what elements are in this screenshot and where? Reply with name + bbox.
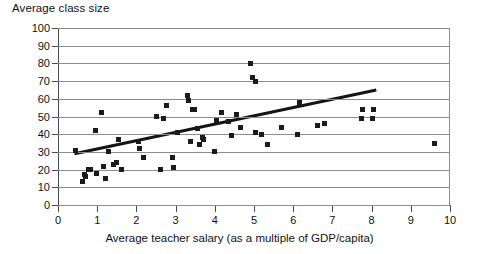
x-axis-title: Average teacher salary (as a multiple of… [0,232,479,244]
y-tick-40 [52,134,58,135]
y-tick-label-60: 60 [10,94,50,104]
data-point [370,116,375,121]
y-tick-10 [52,187,58,188]
y-tick-label-10: 10 [10,182,50,192]
data-point [161,116,166,121]
data-point [171,165,176,170]
data-point [154,114,159,119]
data-point [226,119,231,124]
data-point [186,98,191,103]
gridline-y-100 [58,28,450,29]
data-point [170,155,175,160]
data-point [360,107,365,112]
y-tick-label-70: 70 [10,76,50,86]
data-point [116,137,121,142]
data-point [315,123,320,128]
y-tick-100 [52,28,58,29]
data-point [88,167,93,172]
gridline-y-60 [58,99,450,100]
data-point [175,130,180,135]
gridline-y-30 [58,152,450,153]
y-tick-30 [52,152,58,153]
x-tick-8 [372,206,373,212]
data-point [94,171,99,176]
y-tick-20 [52,170,58,171]
data-point [93,128,98,133]
data-point [195,126,200,131]
y-tick-label-20: 20 [10,165,50,175]
data-point [432,141,437,146]
data-point [197,142,202,147]
y-tick-label-40: 40 [10,129,50,139]
data-point [164,103,169,108]
x-tick-6 [293,206,294,212]
data-point [253,79,258,84]
data-point [137,146,142,151]
data-point [192,107,197,112]
x-tick-label-6: 6 [278,214,308,226]
data-point [185,93,190,98]
x-tick-label-1: 1 [82,214,112,226]
y-tick-label-30: 30 [10,147,50,157]
gridline-y-10 [58,187,450,188]
data-point [214,118,219,123]
plot-area [58,28,450,205]
data-point [103,176,108,181]
data-point [99,110,104,115]
data-point [188,139,193,144]
y-tick-60 [52,99,58,100]
gridline-y-50 [58,117,450,118]
data-point [234,112,239,117]
x-tick-7 [332,206,333,212]
x-tick-label-8: 8 [357,214,387,226]
x-tick-0 [58,206,59,212]
y-tick-label-90: 90 [10,41,50,51]
x-tick-label-9: 9 [396,214,426,226]
x-tick-label-3: 3 [161,214,191,226]
x-tick-label-10: 10 [435,214,465,226]
data-point [297,100,302,105]
y-tick-70 [52,81,58,82]
data-point [119,167,124,172]
data-point [80,179,85,184]
y-tick-90 [52,46,58,47]
data-point [322,121,327,126]
x-tick-label-2: 2 [121,214,151,226]
y-tick-label-80: 80 [10,58,50,68]
data-point [248,61,253,66]
data-point [295,132,300,137]
data-point [158,167,163,172]
y-tick-label-0: 0 [10,200,50,210]
data-point [73,148,78,153]
data-point [279,125,284,130]
x-tick-4 [215,206,216,212]
data-point [238,125,243,130]
data-point [136,139,141,144]
data-point [106,149,111,154]
data-point [265,142,270,147]
y-tick-label-50: 50 [10,112,50,122]
x-tick-1 [97,206,98,212]
data-point [259,132,264,137]
scatter-chart: Average class size 010203040506070809010… [0,0,479,254]
x-tick-3 [176,206,177,212]
x-tick-label-5: 5 [239,214,269,226]
y-tick-50 [52,117,58,118]
data-point [359,116,364,121]
gridline-y-20 [58,170,450,171]
gridline-y-90 [58,46,450,47]
x-tick-label-4: 4 [200,214,230,226]
y-tick-label-100: 100 [10,23,50,33]
data-point [101,164,106,169]
data-point [83,174,88,179]
data-point [371,107,376,112]
data-point [212,149,217,154]
x-tick-9 [411,206,412,212]
y-tick-80 [52,63,58,64]
x-tick-label-0: 0 [43,214,73,226]
data-point [219,110,224,115]
x-tick-2 [136,206,137,212]
data-point [114,160,119,165]
x-tick-5 [254,206,255,212]
data-point [201,137,206,142]
